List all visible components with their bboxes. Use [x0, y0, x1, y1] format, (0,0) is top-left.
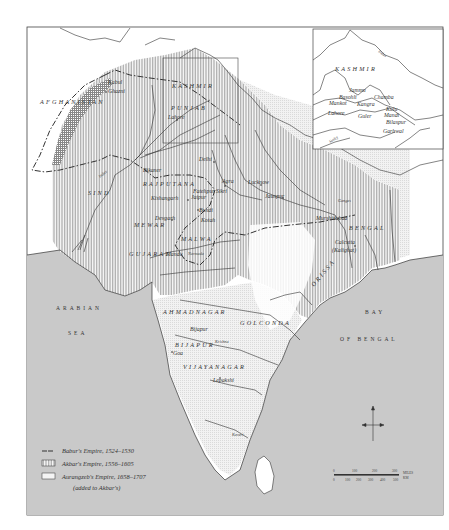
svg-text:0: 0	[333, 469, 335, 473]
inset-chamba: Chamba	[374, 94, 394, 100]
label-kotah: Kotah	[200, 217, 215, 223]
label-sind: SIND	[88, 189, 111, 196]
label-bay: BAY	[365, 309, 385, 315]
label-vijayanagar: VIJAYANAGAR	[183, 363, 246, 370]
label-narmada: Narmada	[187, 251, 204, 256]
label-kashmir: KASHMIR	[171, 82, 214, 89]
svg-text:(added to Akbar's): (added to Akbar's)	[73, 484, 120, 492]
label-kabul: Kabul	[107, 79, 123, 85]
inset-mankot: Mankot	[328, 100, 347, 106]
label-agra: Agra	[221, 178, 234, 184]
label-ahmadnagar: AHMADNAGAR	[162, 308, 227, 315]
svg-text:Babur's Empire, 1524–1530: Babur's Empire, 1524–1530	[62, 447, 135, 454]
label-gujarat: GUJARAT	[129, 250, 171, 257]
svg-text:100: 100	[352, 469, 357, 473]
label-murshidabad: Murshidabad	[315, 215, 347, 221]
label-kishangarh: Kishangarh	[150, 195, 178, 201]
label-delhi: Delhi	[198, 156, 212, 162]
historical-map-mughal-empire: AFGHANISTAN KASHMIR PUNJAB SIND RAJPUTAN…	[0, 0, 449, 530]
label-arabian: ARABIAN	[56, 305, 102, 311]
label-bengal: BENGAL	[349, 224, 386, 231]
label-sea: SEA	[68, 330, 87, 336]
label-goa: Goa	[173, 350, 183, 356]
label-kalighat: (Kalighat)	[332, 247, 356, 254]
label-ghazni: Ghazni	[108, 88, 125, 94]
label-bikaner: Bikaner	[143, 167, 162, 173]
label-of-bengal: OF BENGAL	[340, 336, 398, 342]
kashmir-inset-map	[313, 29, 443, 149]
inset-jammu: Jammu	[349, 87, 366, 93]
label-rajputana: RAJPUTANA	[142, 180, 196, 187]
label-bundi: Bundi	[199, 207, 213, 213]
svg-text:100: 100	[345, 478, 350, 482]
svg-text:MILES: MILES	[403, 471, 413, 475]
svg-text:0: 0	[333, 478, 335, 482]
label-jaipur: Jaipur	[191, 194, 207, 200]
svg-text:300: 300	[392, 469, 397, 473]
inset-bilaspur: Bilaspur	[386, 119, 407, 125]
svg-text:500: 500	[393, 478, 398, 482]
label-mandu: Mandu	[165, 251, 183, 257]
label-malwa: MALWA	[180, 235, 213, 242]
inset-mandi: Mandi	[383, 112, 400, 118]
svg-text:400: 400	[380, 478, 385, 482]
label-krishna: Krishna	[214, 339, 229, 344]
inset-garhwal: Garhwal	[383, 128, 404, 134]
label-kaveri: Kaveri	[231, 432, 244, 437]
svg-text:200: 200	[356, 478, 361, 482]
inset-kangra: Kangra	[356, 101, 375, 107]
label-lucknow: Lucknow	[247, 179, 269, 185]
label-golconda: GOLCONDA	[240, 319, 291, 326]
inset-lahore: Lahore	[327, 110, 345, 116]
svg-text:KM: KM	[403, 476, 408, 480]
inset-label-kashmir: KASHMIR	[334, 65, 377, 72]
label-afghanistan: AFGHANISTAN	[39, 98, 105, 105]
svg-text:Aurangzeb's Empire, 1658–1707: Aurangzeb's Empire, 1658–1707	[61, 473, 146, 480]
svg-text:200: 200	[372, 469, 377, 473]
label-calcutta: Calcutta	[335, 239, 355, 245]
inset-guler: Guler	[358, 113, 372, 119]
label-jaunpur: Jaunpur	[265, 193, 285, 199]
label-bijapur-city: Bijapur	[190, 326, 208, 332]
label-mewar: MEWAR	[133, 221, 166, 228]
svg-text:Akbar's Empire, 1556–1605: Akbar's Empire, 1556–1605	[61, 460, 134, 467]
label-lepakshi: Lepakshi	[212, 377, 234, 383]
label-lahore: Lahore	[167, 114, 185, 120]
svg-text:300: 300	[368, 478, 373, 482]
label-punjab: PUNJAB	[170, 104, 207, 111]
label-ganges: Ganges	[338, 198, 351, 203]
label-bijapur: BIJAPUR	[175, 341, 215, 348]
